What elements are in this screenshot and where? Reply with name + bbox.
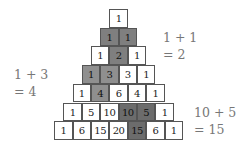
- sum-annotation: 1 + 3= 4: [14, 66, 48, 100]
- triangle-cell: 1: [155, 103, 173, 122]
- sum-annotation: 10 + 5= 15: [194, 104, 236, 138]
- highlighted-cell: 1: [100, 28, 118, 47]
- triangle-cell: 1: [128, 46, 146, 65]
- triangle-cell: 1: [63, 103, 81, 122]
- triangle-cell: 20: [109, 121, 127, 140]
- annotation-line-1: 10 + 5: [194, 104, 236, 121]
- highlighted-cell: 5: [137, 103, 155, 122]
- annotation-line-2: = 2: [163, 46, 197, 63]
- highlighted-cell: 1: [82, 65, 100, 84]
- highlighted-cell: 1: [119, 28, 137, 47]
- sum-annotation: 1 + 1= 2: [163, 29, 197, 63]
- triangle-cell: 1: [91, 46, 109, 65]
- triangle-cell: 15: [91, 121, 109, 140]
- triangle-cell: 3: [119, 65, 137, 84]
- highlighted-cell: 3: [100, 65, 118, 84]
- annotation-line-2: = 4: [14, 83, 48, 100]
- triangle-cell: 6: [146, 121, 164, 140]
- triangle-cell: 1: [146, 84, 164, 103]
- highlighted-cell: 2: [109, 46, 127, 65]
- triangle-cell: 6: [109, 84, 127, 103]
- triangle-cell: 6: [73, 121, 91, 140]
- triangle-cell: 1: [73, 84, 91, 103]
- highlighted-cell: 4: [91, 84, 109, 103]
- pascal-triangle: 1111211331146411510105116152015611 + 1= …: [0, 0, 246, 151]
- annotation-line-1: 1 + 3: [14, 66, 48, 83]
- triangle-cell: 1: [54, 121, 72, 140]
- annotation-line-1: 1 + 1: [163, 29, 197, 46]
- triangle-cell: 1: [109, 9, 127, 28]
- triangle-cell: 4: [128, 84, 146, 103]
- triangle-cell: 1: [137, 65, 155, 84]
- highlighted-cell: 15: [128, 121, 146, 140]
- highlighted-cell: 10: [119, 103, 137, 122]
- triangle-cell: 5: [82, 103, 100, 122]
- triangle-cell: 1: [165, 121, 183, 140]
- annotation-line-2: = 15: [194, 121, 236, 138]
- triangle-cell: 10: [100, 103, 118, 122]
